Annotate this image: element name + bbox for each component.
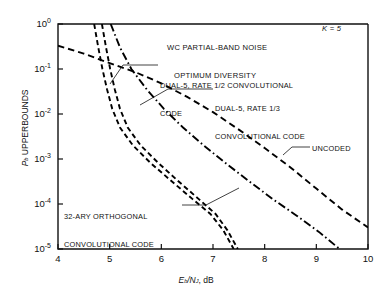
annotation-rate-third-line2: CONVOLUTIONAL CODE [215, 132, 305, 141]
x-axis-label-nj: /N [187, 275, 196, 285]
x-tick-label-10: 10 [363, 253, 374, 264]
x-tick-label-4: 4 [55, 253, 60, 264]
annotation-rate-third-line1: DUAL-5, RATE 1/3 [215, 104, 305, 113]
y-tick-label-1e-5: 10-5 [34, 242, 51, 254]
y-axis-label: Pb UPPERBOUNDS [12, 78, 41, 188]
parameter-k-label: K = 5 [322, 24, 341, 33]
x-tick-label-6: 6 [159, 253, 164, 264]
y-axis-label-rest: UPPERBOUNDS [21, 89, 31, 157]
annotation-uncoded: UNCODED [312, 144, 351, 153]
x-axis-label-units: , dB [199, 275, 214, 285]
x-axis-label: Eb/NJ, dB [169, 267, 214, 290]
annotation-32ary-line2: CONVOLUTIONAL CODE [64, 240, 154, 249]
annotation-32ary-line1: 32-ARY ORTHOGONAL [64, 212, 154, 221]
y-tick-label-1e-1: 10-1 [34, 62, 51, 74]
x-tick-label-8: 8 [262, 253, 267, 264]
leader-rate-half [110, 65, 158, 84]
y-axis-label-p: P [21, 161, 31, 167]
chart-title-line1: WC PARTIAL-BAND NOISE [167, 43, 267, 52]
y-tick-label-1e-4: 10-4 [34, 197, 51, 209]
x-tick-label-7: 7 [210, 253, 215, 264]
figure: 4567891010010-110-210-310-410-5 WC PARTI… [0, 0, 391, 290]
x-tick-label-9: 9 [314, 253, 319, 264]
y-axis-label-sub-b: b [24, 158, 30, 161]
y-tick-label-1e0: 100 [37, 17, 52, 29]
annotation-rate-third: DUAL-5, RATE 1/3 CONVOLUTIONAL CODE [215, 85, 305, 160]
annotation-32ary: 32-ARY ORTHOGONAL CONVOLUTIONAL CODE [64, 193, 154, 268]
